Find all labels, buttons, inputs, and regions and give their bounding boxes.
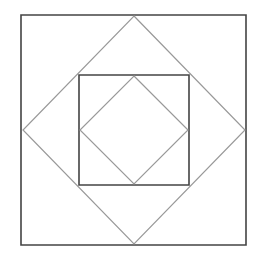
nested-shapes-diagram <box>0 0 260 256</box>
outer-square <box>21 15 246 245</box>
outer-diamond <box>23 16 245 244</box>
inner-square <box>79 75 189 185</box>
inner-diamond <box>80 76 188 184</box>
